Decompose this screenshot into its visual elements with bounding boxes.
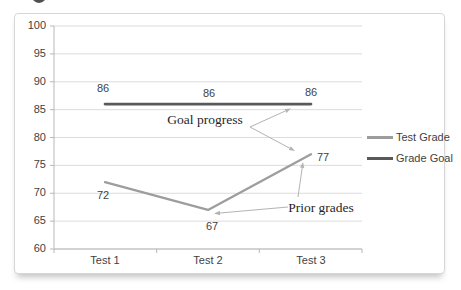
y-tick-label: 100 <box>8 19 46 32</box>
legend-label: Grade Goal <box>396 152 453 165</box>
test-grade-line-swatch <box>367 136 393 139</box>
annotation-prior-grades: Prior grades <box>261 200 381 215</box>
y-tick-label: 85 <box>8 103 46 116</box>
data-label-goal-test2: 86 <box>189 87 229 100</box>
legend-item-grade-goal: Grade Goal <box>367 152 453 165</box>
chart-page: 100 95 90 85 80 75 70 65 60 Test 1 Test … <box>0 0 461 290</box>
data-label-grade-test2: 67 <box>192 220 232 233</box>
y-tick-label: 95 <box>8 47 46 60</box>
annotation-goal-progress: Goal progress <box>145 112 265 127</box>
y-tick-label: 65 <box>8 214 46 227</box>
data-label-grade-test1: 72 <box>83 189 123 202</box>
y-tick-label: 70 <box>8 186 46 199</box>
legend-label: Test Grade <box>396 131 450 144</box>
y-tick-label: 60 <box>8 242 46 255</box>
data-label-grade-test3: 77 <box>303 151 343 164</box>
legend-item-test-grade: Test Grade <box>367 131 450 144</box>
x-category-label: Test 1 <box>75 254 135 267</box>
partial-circle-mark <box>0 0 60 10</box>
y-tick-label: 80 <box>8 131 46 144</box>
y-tick-label: 90 <box>8 75 46 88</box>
x-category-label: Test 2 <box>178 254 238 267</box>
data-label-goal-test1: 86 <box>83 82 123 95</box>
x-category-label: Test 3 <box>281 254 341 267</box>
grade-goal-line-swatch <box>367 157 393 160</box>
data-label-goal-test3: 86 <box>291 86 331 99</box>
y-tick-label: 75 <box>8 158 46 171</box>
